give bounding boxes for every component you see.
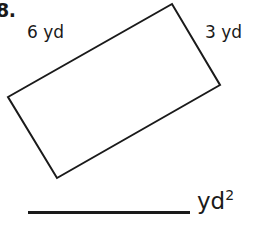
answer-unit-base: yd [197, 188, 225, 214]
worksheet-problem: 8. 6 yd 3 yd yd2 [0, 0, 259, 226]
answer-unit: yd2 [197, 186, 234, 216]
answer-row: yd2 [0, 186, 259, 226]
answer-blank-line[interactable] [28, 211, 190, 214]
side-label-long: 6 yd [27, 23, 64, 42]
answer-unit-exponent: 2 [225, 187, 234, 203]
side-label-short: 3 yd [205, 23, 242, 42]
